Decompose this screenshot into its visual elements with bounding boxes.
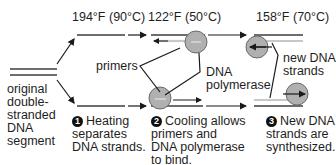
polymerase-circle	[149, 87, 171, 109]
step2-bottom-assembly	[149, 87, 203, 109]
step-number-badge: 3	[266, 116, 277, 127]
step-number-badge: 1	[72, 116, 83, 127]
step1-text: Heating separates DNA strands.	[72, 114, 146, 154]
new-strands-pointer	[270, 43, 278, 98]
original-dna-strands	[10, 69, 57, 75]
new-strands-label: new DNA strands	[283, 52, 336, 78]
step1-caption: 1Heating separates DNA strands.	[72, 115, 146, 154]
step2-top-assembly	[151, 31, 207, 53]
pcr-diagram: 194°F (90°C) 122°F (50°C) 158°F (70°C) o…	[0, 0, 336, 165]
polymerase-label: DNA polymerase	[206, 66, 271, 92]
primers-pointer	[140, 48, 180, 92]
temperature-step1: 194°F (90°C)	[72, 11, 145, 24]
step2-caption: 2Cooling allows primers and DNA polymera…	[151, 115, 246, 165]
primers-label: primers	[96, 60, 138, 73]
step2-text: Cooling allows primers and DNA polymeras…	[151, 114, 246, 165]
original-dna-label: original double- stranded DNA segment	[7, 83, 56, 148]
step-number-badge: 2	[151, 116, 162, 127]
temperature-step3: 158°F (70°C)	[256, 11, 329, 24]
temperature-step2: 122°F (50°C)	[148, 11, 221, 24]
arrow-up-icon	[57, 39, 74, 64]
step3-caption: 3New DNA strands are synthesized.	[266, 115, 335, 154]
arrow-down-icon	[57, 80, 74, 103]
polymerase-pointer	[165, 53, 200, 95]
